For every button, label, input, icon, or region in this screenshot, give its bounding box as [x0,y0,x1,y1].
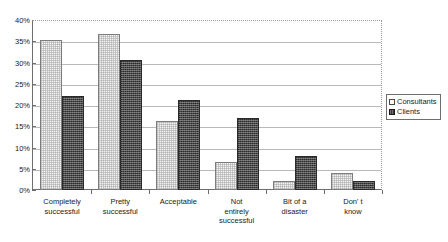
x-axis-label-line: Don' t [324,197,382,207]
bar-clients-1 [120,60,142,190]
y-axis-tick-label: 20% [2,102,30,110]
bar-chart: 40%35%30%25%20%15%10%5%0% Completelysucc… [0,0,448,242]
bar-consultants-2 [156,121,178,190]
x-axis-category-label: Don' tknow [324,197,382,216]
x-axis-label-line: Not [208,197,266,207]
y-axis-tick-label: 30% [2,59,30,67]
x-axis-tick-mark [382,190,383,194]
bar-clients-2 [178,100,200,190]
x-axis-label-line: Completely [33,197,91,207]
x-axis-label-line: disaster [266,207,324,217]
bar-clients-3 [237,118,259,190]
bar-consultants-4 [273,181,295,190]
legend-swatch-consultants [389,99,395,105]
x-axis-label-line: successful [33,207,91,217]
x-axis-category-label: Notentirelysuccessful [208,197,266,226]
x-axis-label-line: successful [208,216,266,226]
x-axis-label-line: entirely [208,207,266,217]
x-axis-tick-mark [208,190,209,194]
y-axis-tick-label: 5% [2,165,30,173]
x-axis-tick-mark [91,190,92,194]
x-axis-tick-mark [149,190,150,194]
bar-clients-5 [353,181,375,190]
chart-title-remnant [100,0,350,5]
bar-consultants-1 [98,34,120,190]
y-axis-tick-label: 0% [2,187,30,195]
y-axis-tick-label: 35% [2,38,30,46]
x-axis-tick-mark [324,190,325,194]
legend-label: Consultants [397,98,437,106]
x-axis-tick-mark [266,190,267,194]
legend-item-consultants[interactable]: Consultants [389,97,437,107]
x-axis-label-line: successful [91,207,149,217]
x-axis-category-label: Bit of adisaster [266,197,324,216]
x-axis-label-line: know [324,207,382,217]
x-axis-label-line: Acceptable [149,197,207,207]
legend-item-clients[interactable]: Clients [389,107,437,117]
x-axis-category-label: Completelysuccessful [33,197,91,216]
x-axis: CompletelysuccessfulPrettysuccessfulAcce… [33,197,382,242]
x-axis-label-line: Bit of a [266,197,324,207]
x-axis-label-line: Pretty [91,197,149,207]
legend-swatch-clients [389,109,395,115]
y-axis-tick-label: 40% [2,17,30,25]
bar-consultants-3 [215,162,237,190]
bar-clients-0 [62,96,84,190]
bar-consultants-0 [40,40,62,190]
legend-label: Clients [397,108,420,116]
bars-layer [33,20,382,190]
x-axis-category-label: Prettysuccessful [91,197,149,216]
bar-clients-4 [295,156,317,190]
x-axis-category-label: Acceptable [149,197,207,207]
y-axis-tick-label: 10% [2,144,30,152]
y-axis-tick-label: 15% [2,123,30,131]
bar-consultants-5 [331,173,353,190]
y-axis-tick-mark [32,190,36,191]
y-axis: 40%35%30%25%20%15%10%5%0% [0,20,30,190]
y-axis-tick-label: 25% [2,80,30,88]
chart-legend: ConsultantsClients [386,94,441,120]
